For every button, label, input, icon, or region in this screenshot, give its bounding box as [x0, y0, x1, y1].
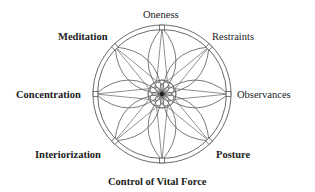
label-oneness: Oneness — [143, 10, 179, 21]
limb-marker — [93, 92, 98, 97]
limb-marker — [160, 25, 165, 30]
limb-marker — [112, 44, 119, 51]
petal-arc — [175, 94, 229, 141]
label-posture: Posture — [216, 150, 250, 161]
petal-arc — [96, 47, 150, 94]
limb-marker — [206, 44, 213, 51]
petal-arc — [175, 47, 229, 94]
center-dot — [160, 92, 164, 96]
limb-marker — [206, 138, 213, 145]
petal-arc — [115, 28, 162, 82]
label-restraints: Restraints — [212, 32, 254, 43]
limb-marker — [226, 92, 231, 97]
limb-marker — [112, 138, 119, 145]
label-interiorization: Interiorization — [35, 150, 101, 161]
limb-marker — [160, 158, 165, 163]
petal-arc — [162, 107, 209, 161]
label-meditation: Meditation — [58, 32, 108, 43]
label-observances: Observances — [237, 90, 291, 101]
petal-arc — [162, 28, 209, 82]
label-control-of-vital-force: Control of Vital Force — [108, 177, 206, 188]
label-concentration: Concentration — [16, 90, 81, 101]
petal-arc — [96, 94, 150, 141]
petal-arc — [115, 107, 162, 161]
